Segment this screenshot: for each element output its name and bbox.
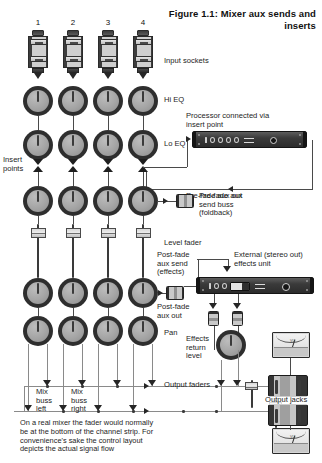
- junction-buss-r-2: [97, 410, 100, 413]
- arrow-fx-return-buss-l: [217, 380, 225, 386]
- arrow-prefade-aux: [163, 198, 168, 204]
- wire-insert-aux-2: [73, 172, 74, 186]
- label-post-fade-aux-out: Post-fade aux out: [157, 303, 190, 320]
- knob-post-fade-aux-3[interactable]: [93, 278, 123, 308]
- arrow-fx-return-buss-r: [233, 380, 241, 386]
- wire-aux-fader-4: [143, 216, 144, 224]
- arrow-effects-out-right: [233, 303, 241, 309]
- wire-pan1-left: [28, 344, 29, 411]
- level-fader-2[interactable]: [66, 228, 81, 238]
- knob-post-fade-aux-1[interactable]: [23, 278, 53, 308]
- input-socket-1[interactable]: [28, 30, 48, 76]
- output-jack-top[interactable]: [268, 375, 308, 397]
- knob-pan-4[interactable]: [128, 316, 158, 346]
- signal-arrow-socket-2: [69, 73, 77, 79]
- label-external-effects-unit: External (stereo out) effects unit: [234, 251, 303, 268]
- junction-buss-l-3: [116, 385, 119, 388]
- wire-insert-aux-4: [143, 172, 144, 186]
- effects-ear-right: [310, 278, 313, 293]
- input-socket-2[interactable]: [63, 30, 83, 76]
- junction-buss-r-5: [215, 410, 218, 413]
- knob-pre-fade-aux-4[interactable]: [128, 186, 158, 216]
- effects-return-connector-left[interactable]: [208, 311, 219, 326]
- label-processor-insert: Processor connected via insert point: [186, 112, 269, 129]
- junction-buss-r-1: [62, 410, 65, 413]
- knob-hi-eq-3[interactable]: [93, 86, 123, 116]
- junction-buss-r-4: [182, 410, 185, 413]
- knob-hi-eq-4[interactable]: [128, 86, 158, 116]
- wire-hieq-loeq-1: [38, 116, 39, 130]
- wire-pan3-left: [98, 344, 99, 411]
- vu-meter-top: VU: [272, 332, 310, 358]
- signal-arrow-socket-4: [139, 73, 147, 79]
- wire-hieq-loeq-3: [108, 116, 109, 130]
- output-jack-bottom[interactable]: [268, 404, 308, 426]
- wire-insert-aux-3: [108, 172, 109, 186]
- label-output-jacks: Output jacks: [264, 396, 308, 405]
- level-fader-1[interactable]: [31, 228, 46, 238]
- knob-pre-fade-aux-1[interactable]: [23, 186, 53, 216]
- knob-lo-eq-2[interactable]: [58, 130, 88, 160]
- wire-hieq-loeq-4: [143, 116, 144, 130]
- arrow-buss-right-flow: [144, 408, 149, 414]
- arrow-into-processor: [186, 136, 191, 142]
- knob-lo-eq-3[interactable]: [93, 130, 123, 160]
- label-pre-fade-aux-send-buss: Pre-fade aux send buss (foldback): [199, 192, 242, 218]
- level-fader-3[interactable]: [101, 228, 116, 238]
- insert-point-1-top[interactable]: [33, 159, 43, 165]
- label-insert-points: Insert points: [3, 156, 23, 173]
- wire-aux-fader-3: [108, 216, 109, 224]
- knob-hi-eq-1[interactable]: [23, 86, 53, 116]
- label-mix-buss-left: Mix buss left: [36, 388, 52, 414]
- processor-rack-unit[interactable]: [192, 131, 307, 148]
- wire-return-left-down: [214, 326, 215, 350]
- label-input-sockets: Input sockets: [164, 57, 209, 66]
- insert-point-3-top[interactable]: [103, 159, 113, 165]
- figure-caption: On a real mixer the fader would normally…: [20, 419, 255, 454]
- wire-insert-out-h: [143, 167, 187, 168]
- post-fade-aux-send-connector[interactable]: [166, 286, 184, 300]
- knob-lo-eq-4[interactable]: [128, 130, 158, 160]
- knob-pan-1[interactable]: [23, 316, 53, 346]
- wire-pan4-left: [133, 344, 134, 411]
- knob-effects-return-level[interactable]: [216, 330, 246, 360]
- wire-aux-fader-2: [73, 216, 74, 224]
- wire-insert-aux-1: [38, 172, 39, 186]
- arrow-postfade-aux: [158, 290, 163, 296]
- arrow-buss-left-flow: [144, 383, 149, 389]
- label-output-faders: Output faders: [164, 381, 210, 390]
- channel-number-3: 3: [101, 18, 115, 27]
- label-lo-eq: Lo EQ: [164, 140, 186, 149]
- wire-processor-out-v: [312, 140, 313, 190]
- wire-vu-top: [290, 358, 291, 375]
- knob-pan-2[interactable]: [58, 316, 88, 346]
- knob-post-fade-aux-2[interactable]: [58, 278, 88, 308]
- effects-return-connector-right[interactable]: [232, 311, 243, 326]
- wire-aux-fader-1: [38, 216, 39, 224]
- label-effects-return-level: Effects return level: [186, 335, 209, 361]
- signal-arrow-socket-1: [34, 73, 42, 79]
- knob-pre-fade-aux-3[interactable]: [93, 186, 123, 216]
- vu-meter-bottom: VU: [272, 428, 310, 454]
- knob-hi-eq-2[interactable]: [58, 86, 88, 116]
- insert-point-4-top[interactable]: [138, 159, 148, 165]
- knob-pan-3[interactable]: [93, 316, 123, 346]
- figure-canvas: Figure 1.1: Mixer aux sends and inserts …: [0, 0, 322, 463]
- figure-title: Figure 1.1: Mixer aux sends and inserts: [156, 8, 316, 31]
- channel-number-1: 1: [31, 18, 45, 27]
- output-fader-1[interactable]: [245, 382, 258, 390]
- pre-fade-aux-send-buss-connector[interactable]: [176, 194, 194, 208]
- insert-point-2-top[interactable]: [68, 159, 78, 165]
- input-socket-3[interactable]: [98, 30, 118, 76]
- input-socket-4[interactable]: [133, 30, 153, 76]
- channel-number-4: 4: [136, 18, 150, 27]
- knob-post-fade-aux-4[interactable]: [128, 278, 158, 308]
- channel-number-2: 2: [66, 18, 80, 27]
- external-effects-rack-unit[interactable]: [196, 277, 314, 294]
- mix-buss-right-rail: [14, 411, 284, 412]
- knob-pre-fade-aux-2[interactable]: [58, 186, 88, 216]
- wire-pan2-left: [63, 344, 64, 411]
- knob-lo-eq-1[interactable]: [23, 130, 53, 160]
- effects-faceplate: [200, 278, 310, 293]
- level-fader-4[interactable]: [136, 228, 151, 238]
